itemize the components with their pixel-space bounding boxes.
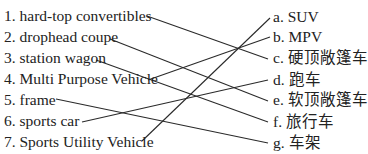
left-item-3: 3. station wagon: [4, 49, 106, 67]
right-item-c: c. 硬顶敞篷车: [273, 49, 368, 67]
left-item-4: 4. Multi Purpose Vehicle: [4, 70, 158, 88]
left-item-7: 7. Sports Utility Vehicle: [4, 133, 154, 151]
right-item-a: a. SUV: [273, 8, 319, 26]
left-item-6: 6. sports car: [4, 112, 79, 130]
left-item-5: 5. frame: [4, 91, 56, 109]
right-item-b: b. MPV: [273, 28, 322, 46]
right-item-g: g. 车架: [273, 134, 321, 152]
right-item-d: d. 跑车: [273, 71, 321, 89]
match-line-4-b: [148, 37, 270, 80]
right-item-e: e. 软顶敞篷车: [273, 91, 368, 109]
left-item-2: 2. drophead coupe: [4, 28, 118, 46]
left-item-1: 1. hard-top convertibles: [4, 7, 152, 25]
right-item-f: f. 旅行车: [273, 113, 334, 131]
